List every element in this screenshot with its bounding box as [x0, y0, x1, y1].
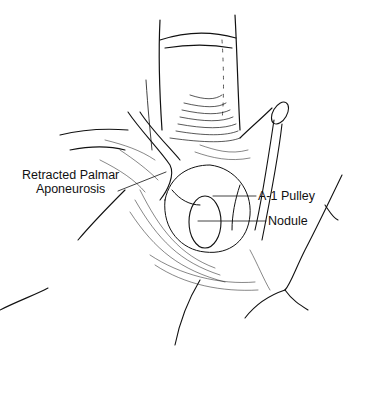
- nodule-shape: [189, 196, 221, 248]
- label-line: Aponeurosis: [22, 182, 119, 196]
- finger-drawing: [146, 15, 240, 150]
- tissue-hatching: [100, 140, 270, 290]
- leader-lines: [118, 172, 266, 221]
- palm-outline: [0, 129, 342, 345]
- label-nodule: Nodule: [268, 214, 308, 228]
- finger-creases: [170, 95, 240, 142]
- label-line: Retracted Palmar: [22, 168, 119, 182]
- label-retracted-palmar-aponeurosis: Retracted Palmar Aponeurosis: [22, 168, 119, 196]
- incision-wound: [165, 165, 250, 252]
- label-a1-pulley: A-1 Pulley: [258, 189, 315, 203]
